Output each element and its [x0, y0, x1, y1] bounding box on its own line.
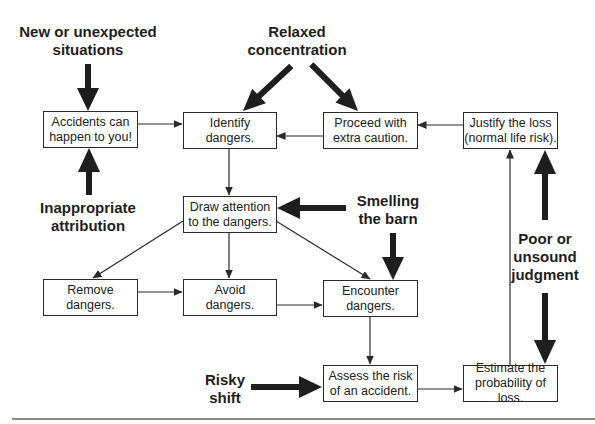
- box-accidents-can-happen: Accidents can happen to you!: [43, 111, 138, 148]
- label-poor-or-unsound-judgment: Poor or unsound judgment: [511, 230, 579, 284]
- box-encounter-dangers: Encounter dangers.: [323, 280, 418, 317]
- box-remove-dangers: Remove dangers.: [43, 279, 138, 316]
- label-risky-shift: Risky shift: [205, 371, 245, 407]
- box-estimate-probability: Estimate the probability of loss.: [463, 365, 558, 402]
- box-proceed-with-caution: Proceed with extra caution.: [323, 112, 418, 149]
- label-inappropriate-attribution: Inappropriate attribution: [40, 199, 136, 235]
- box-draw-attention: Draw attention to the dangers.: [183, 196, 277, 233]
- box-assess-risk: Assess the risk of an accident.: [323, 365, 418, 402]
- influence-arrows: [77, 57, 556, 398]
- edge-draw-encounter: [276, 221, 370, 279]
- box-justify-the-loss: Justify the loss (normal life risk).: [463, 112, 558, 149]
- bottom-divider: [12, 418, 595, 420]
- label-new-or-unexpected-situations: New or unexpected situations: [19, 23, 157, 59]
- box-identify-dangers: Identify dangers.: [183, 112, 277, 149]
- label-smelling-the-barn: Smelling the barn: [357, 192, 420, 228]
- label-relaxed-concentration: Relaxed concentration: [247, 23, 346, 59]
- box-avoid-dangers: Avoid dangers.: [183, 279, 277, 316]
